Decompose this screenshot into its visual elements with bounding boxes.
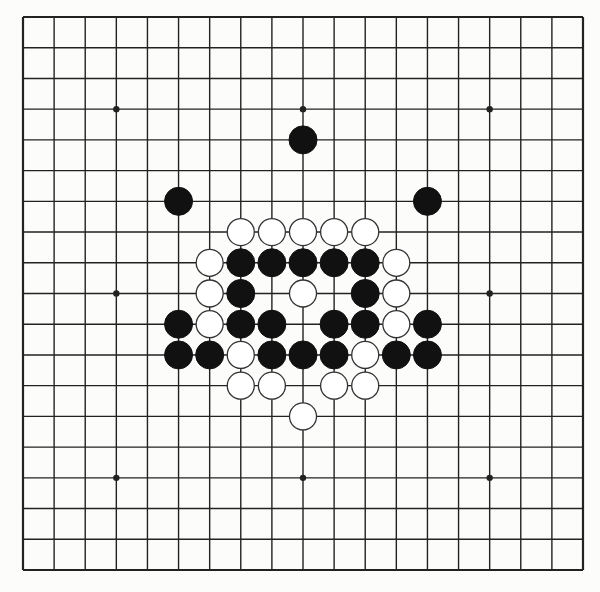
black-stone: [320, 249, 348, 277]
white-stone: [258, 372, 285, 399]
white-stone: [227, 372, 254, 399]
star-point: [113, 106, 119, 112]
black-stone: [289, 341, 317, 369]
black-stone: [382, 341, 410, 369]
black-stone: [413, 341, 441, 369]
black-stone: [258, 341, 286, 369]
black-stone: [196, 341, 224, 369]
black-stone: [165, 187, 193, 215]
black-stone: [289, 249, 317, 277]
white-stone: [196, 311, 223, 338]
black-stone: [351, 280, 379, 308]
white-stone: [196, 249, 223, 276]
star-point: [486, 106, 492, 112]
white-stone: [290, 280, 317, 307]
black-stone: [351, 310, 379, 338]
black-stone: [227, 280, 255, 308]
white-stone: [383, 280, 410, 307]
white-stone: [227, 219, 254, 246]
white-stone: [383, 249, 410, 276]
white-stone: [321, 372, 348, 399]
black-stone: [227, 310, 255, 338]
black-stone: [413, 187, 441, 215]
black-stone: [320, 310, 348, 338]
white-stone: [352, 219, 379, 246]
white-stone: [352, 341, 379, 368]
black-stone: [258, 310, 286, 338]
black-stone: [258, 249, 286, 277]
black-stone: [165, 310, 193, 338]
go-board[interactable]: [0, 0, 600, 592]
white-stone: [290, 403, 317, 430]
star-point: [113, 475, 119, 481]
black-stone: [413, 310, 441, 338]
white-stone: [258, 219, 285, 246]
white-stone: [196, 280, 223, 307]
white-stone: [352, 372, 379, 399]
black-stone: [289, 126, 317, 154]
star-point: [300, 475, 306, 481]
white-stone: [321, 219, 348, 246]
black-stone: [351, 249, 379, 277]
star-point: [486, 475, 492, 481]
black-stone: [165, 341, 193, 369]
white-stone: [290, 219, 317, 246]
white-stone: [383, 311, 410, 338]
white-stone: [227, 341, 254, 368]
star-point: [486, 290, 492, 296]
star-point: [300, 106, 306, 112]
black-stone: [227, 249, 255, 277]
black-stone: [320, 341, 348, 369]
star-point: [113, 290, 119, 296]
